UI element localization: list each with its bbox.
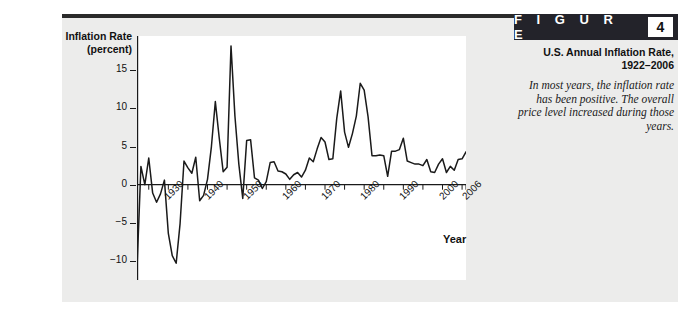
plot-area (137, 36, 466, 280)
y-tick-mark (130, 261, 136, 262)
y-tick-15: 15 (97, 63, 127, 74)
y-tick-0: 0 (97, 178, 127, 189)
y-tick-mark (130, 70, 136, 71)
y-axis-title: Inflation Rate (percent) (54, 30, 132, 55)
y-tick-mark (130, 185, 136, 186)
y-tick-mark (130, 147, 136, 148)
chart-container: Inflation Rate (percent) 151050−5−10 193… (62, 18, 512, 302)
y-tick-−10: −10 (97, 254, 127, 265)
figure-number: 4 (648, 17, 673, 37)
y-tick-−5: −5 (97, 216, 127, 227)
y-tick-mark (130, 108, 136, 109)
x-axis-title: Year (443, 233, 466, 245)
caption-title: U.S. Annual Inflation Rate,1922–2006 (514, 46, 674, 72)
figure-caption: U.S. Annual Inflation Rate,1922–2006 In … (514, 46, 674, 133)
caption-body: In most years, the inflation rate has be… (514, 79, 674, 133)
figure-label: F I G U R E (514, 12, 648, 42)
figure-tab: F I G U R E 4 (514, 14, 678, 40)
inflation-line-chart (137, 36, 466, 280)
y-tick-5: 5 (97, 140, 127, 151)
y-tick-10: 10 (97, 101, 127, 112)
y-tick-mark (130, 223, 136, 224)
